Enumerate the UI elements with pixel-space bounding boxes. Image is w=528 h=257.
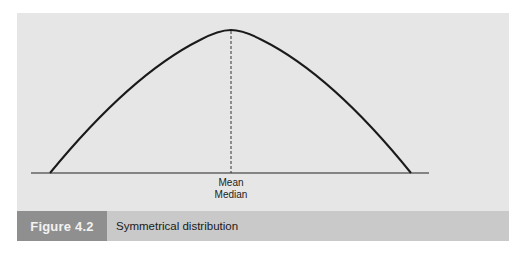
mean-label: Mean [200,177,262,189]
figure-caption: Symmetrical distribution [107,211,238,241]
mean-median-label: Mean Median [200,177,262,201]
figure-caption-bar: Figure 4.2 Symmetrical distribution [17,211,509,241]
median-label: Median [200,189,262,201]
figure-number: Figure 4.2 [17,211,107,241]
